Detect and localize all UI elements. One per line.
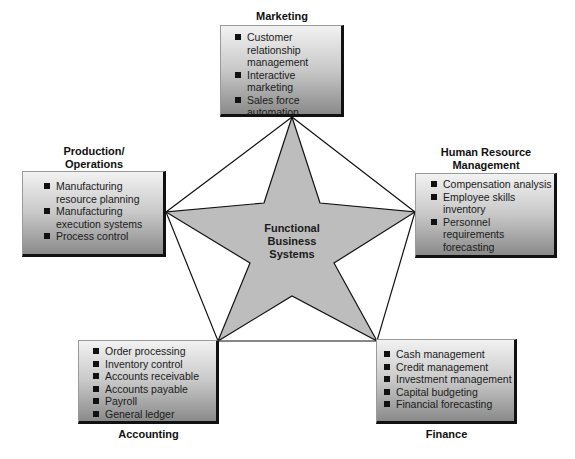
center-label: Functional Business Systems	[252, 222, 332, 261]
list-item: General ledger	[91, 408, 214, 421]
bullet-icon	[235, 72, 241, 78]
list-item: Accounts receivable	[91, 370, 214, 383]
list-item: Financial forecasting	[382, 398, 512, 411]
bullet-icon	[235, 97, 241, 103]
production-box: Manufacturing resource planning Manufact…	[22, 171, 166, 257]
list-item: Investment management	[382, 373, 512, 386]
bullet-icon	[93, 386, 99, 392]
hr-box: Compensation analysis Employee skills in…	[415, 173, 557, 258]
list-item: Order processing	[91, 345, 214, 358]
bullet-icon	[93, 361, 99, 367]
list-item: Personnel requirements forecasting	[429, 216, 552, 254]
bullet-icon	[44, 183, 50, 189]
bullet-icon	[384, 389, 390, 395]
list-item: Interactive marketing	[233, 69, 337, 94]
list-item: Capital budgeting	[382, 386, 512, 399]
bullet-icon	[384, 364, 390, 370]
bullet-icon	[44, 233, 50, 239]
bullet-icon	[431, 194, 437, 200]
bullet-icon	[431, 219, 437, 225]
list-item: Manufacturing resource planning	[42, 180, 159, 205]
bullet-icon	[44, 208, 50, 214]
list-item: Cash management	[382, 348, 512, 361]
bullet-icon	[93, 373, 99, 379]
list-item: Payroll	[91, 395, 214, 408]
bullet-icon	[384, 351, 390, 357]
bullet-icon	[235, 34, 241, 40]
accounting-box: Order processing Inventory control Accou…	[78, 340, 219, 424]
marketing-title: Marketing	[220, 10, 344, 23]
finance-box: Cash management Credit management Invest…	[376, 339, 517, 424]
list-item: Customer relationship management	[233, 31, 337, 69]
bullet-icon	[93, 398, 99, 404]
bullet-icon	[431, 181, 437, 187]
bullet-icon	[93, 348, 99, 354]
list-item: Sales force automation	[233, 94, 337, 119]
production-title: Production/ Operations	[22, 145, 166, 171]
list-item: Employee skills inventory	[429, 191, 552, 216]
hr-title: Human Resource Management	[415, 146, 557, 172]
marketing-box: Customer relationship management Interac…	[220, 25, 344, 117]
list-item: Inventory control	[91, 358, 214, 371]
bullet-icon	[93, 411, 99, 417]
list-item: Accounts payable	[91, 383, 214, 396]
bullet-icon	[384, 376, 390, 382]
list-item: Manufacturing execution systems	[42, 205, 159, 230]
accounting-title: Accounting	[78, 428, 219, 441]
bullet-icon	[384, 401, 390, 407]
list-item: Process control	[42, 230, 159, 243]
finance-title: Finance	[376, 428, 517, 441]
list-item: Credit management	[382, 361, 512, 374]
list-item: Compensation analysis	[429, 178, 552, 191]
